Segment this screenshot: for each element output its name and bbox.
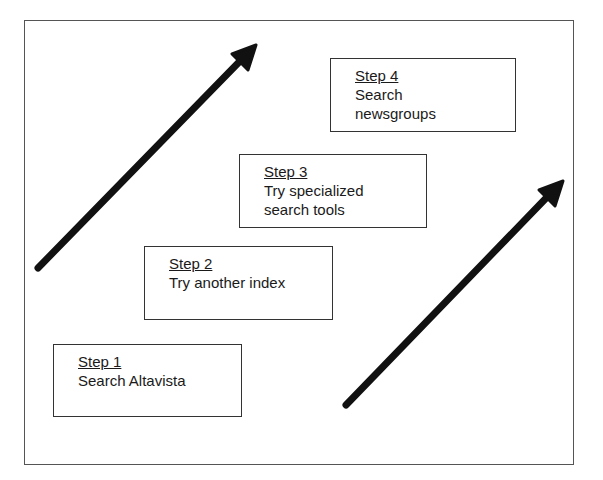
step-4-line-2: newsgroups (355, 104, 436, 123)
step-3-title: Step 3 (264, 162, 363, 181)
step-1-title: Step 1 (78, 352, 186, 371)
step-4-box: Step 4 Search newsgroups (330, 58, 516, 132)
step-1-line-1: Search Altavista (78, 371, 186, 390)
step-2-title: Step 2 (169, 254, 285, 273)
step-4-title: Step 4 (355, 66, 436, 85)
step-2-line-1: Try another index (169, 273, 285, 292)
step-3-box: Step 3 Try specialized search tools (239, 154, 427, 228)
arrow-up-right-icon (38, 45, 256, 268)
step-4-line-1: Search (355, 85, 436, 104)
step-3-line-2: search tools (264, 200, 363, 219)
step-2-box: Step 2 Try another index (144, 246, 333, 320)
step-1-box: Step 1 Search Altavista (53, 344, 242, 417)
step-3-line-1: Try specialized (264, 181, 363, 200)
